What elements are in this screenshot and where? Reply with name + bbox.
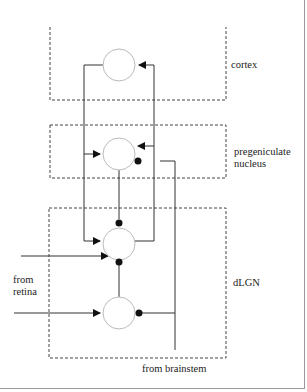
inhibitory-synapse [116,259,123,266]
pregeniculate-region [50,125,226,178]
inhibitory-synapse [136,310,143,317]
cortex-descending-axon [84,65,103,241]
pregeniculate-label-line1: pregeniculate [234,146,291,158]
pregeniculate-label-line2: nucleus [234,158,266,170]
cortex-label: cortex [231,59,257,71]
relay-neuron [103,228,135,260]
brainstem-label: from brainstem [142,363,206,375]
inhibitory-synapse [135,158,142,165]
pregeniculate-neuron [103,138,135,170]
circuit-diagram [0,0,307,392]
brainstem-axon [160,161,175,350]
retina-label-line1: from [13,274,33,286]
relay-ascending-axon [135,65,154,241]
dlgn-label: dLGN [233,277,260,289]
dlgn-region [49,208,226,358]
interneuron [103,297,135,329]
inhibitory-synapse [116,220,123,227]
cortex-region [50,27,226,100]
retina-label-line2: retina [13,286,37,298]
cortex-neuron [103,49,135,81]
